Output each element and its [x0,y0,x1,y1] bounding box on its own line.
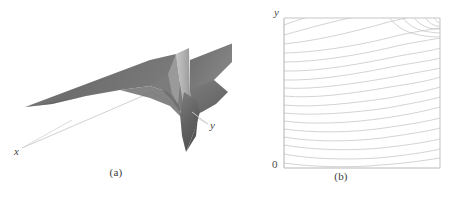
contour-line [284,12,384,35]
x-axis-line [22,92,152,148]
contour-line [284,68,440,88]
contour-line [284,149,440,159]
contour-line [284,9,349,25]
contour-line [284,38,440,62]
contour-y-origin-tick-label: 0 [272,158,278,170]
axis-origin-tick [22,120,72,148]
panel-b-caption: (b) [226,170,456,182]
panel-a-surface-plot: x y (a) [0,0,232,200]
contour-line [284,128,440,141]
figure-container: x y (a) [0,0,462,200]
contour-line [284,77,440,97]
x-axis-label: x [13,145,19,157]
contour-line [424,14,442,26]
contour-line [433,15,443,23]
contour-plot-svg: y x 0 0 [232,0,462,170]
y-axis-label: y [209,119,215,131]
panel-b-contour-plot: y x 0 0 (b) [232,0,462,200]
contour-line [284,118,440,132]
contour-lines-group [284,9,443,167]
contour-line [284,139,440,150]
contour-line [284,158,440,167]
contour-line [284,107,440,123]
contour-y-axis-label: y [273,6,279,18]
contour-line [400,14,442,33]
surface-plot-svg: x y [0,0,232,170]
panel-a-caption: (a) [0,166,232,178]
